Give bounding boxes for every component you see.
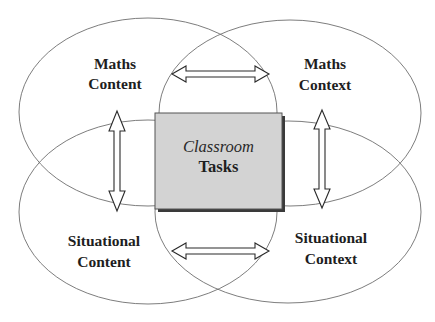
label-maths-content: Maths Content xyxy=(88,55,142,92)
label-maths-context-line2: Context xyxy=(299,76,352,93)
label-maths-context-line1: Maths xyxy=(304,55,346,72)
label-maths-content-line2: Content xyxy=(88,75,142,92)
label-situational-context: Situational Context xyxy=(295,229,368,267)
label-situational-context-line1: Situational xyxy=(295,229,368,246)
arrow-maths-content-situational-content xyxy=(109,111,125,211)
arrow-situational-content-situational-context xyxy=(172,243,269,259)
label-situational-content-line2: Content xyxy=(77,253,131,270)
arrow-maths-content-maths-context xyxy=(172,66,269,82)
label-situational-context-line2: Context xyxy=(305,250,358,267)
label-maths-context: Maths Context xyxy=(299,55,352,93)
center-label-line1: Classroom xyxy=(183,137,254,156)
label-situational-content: Situational Content xyxy=(68,232,141,270)
center-label-line2: Tasks xyxy=(199,157,239,176)
classroom-tasks-diagram: Classroom Tasks Maths Content Maths Cont… xyxy=(0,0,435,322)
classroom-tasks-box: Classroom Tasks xyxy=(155,113,285,212)
arrow-maths-context-situational-context xyxy=(314,110,330,208)
label-maths-content-line1: Maths xyxy=(94,55,136,72)
label-situational-content-line1: Situational xyxy=(68,232,141,249)
